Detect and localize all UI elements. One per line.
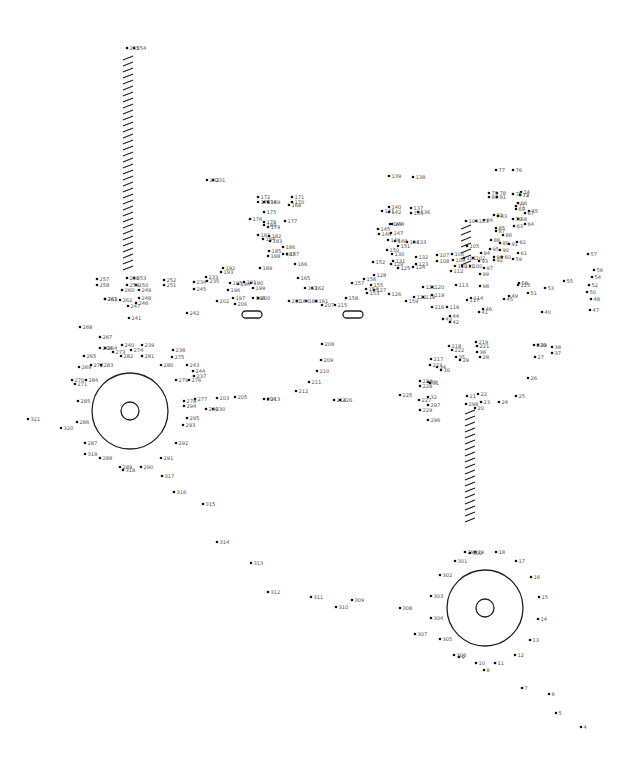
dot-number: 311 [314, 594, 324, 600]
dot-number: 316 [177, 489, 187, 495]
dot-marker [77, 400, 80, 403]
dot-marker [76, 421, 79, 424]
dot-number: 274 [134, 347, 145, 353]
dot-317: 317 [161, 473, 175, 479]
dot-marker [466, 245, 469, 248]
dot-marker [489, 248, 492, 251]
dot-number: 248 [142, 295, 152, 301]
dot-marker [418, 399, 421, 402]
dot-137: 137 [410, 205, 424, 211]
dot-marker [555, 712, 558, 715]
dot-121: 121 [422, 284, 436, 290]
dot-number: 223 [433, 362, 443, 368]
dot-marker [427, 404, 430, 407]
dot-marker [512, 258, 515, 261]
dot-number: 83 [501, 213, 508, 219]
dot-marker [563, 280, 566, 283]
dot-number: 163 [308, 285, 318, 291]
dot-marker [252, 287, 255, 290]
dot-number: 252 [167, 277, 177, 283]
dot-number: 209 [324, 357, 334, 363]
dot-marker [99, 457, 102, 460]
dot-number: 310 [339, 604, 349, 610]
dot-marker [60, 427, 63, 430]
dot-marker [206, 280, 209, 283]
dot-301: 301 [454, 558, 468, 564]
dot-marker [138, 289, 141, 292]
dot-290: 290 [140, 464, 154, 470]
dot-marker [126, 47, 129, 50]
dot-262: 262 [119, 297, 133, 303]
dot-149: 149 [387, 237, 401, 243]
dot-marker [495, 169, 498, 172]
dot-marker [397, 245, 400, 248]
dot-number: 51 [531, 290, 538, 296]
dot-marker [121, 289, 124, 292]
dot-number: 52 [592, 282, 599, 288]
dot-marker [483, 267, 486, 270]
dot-marker [104, 298, 107, 301]
dot-marker [140, 466, 143, 469]
dot-number: 175 [267, 209, 277, 215]
dot-marker [193, 288, 196, 291]
dot-number: 196 [231, 287, 241, 293]
dot-marker [294, 263, 297, 266]
dot-marker [183, 405, 186, 408]
dot-marker [455, 284, 458, 287]
dot-number: 171 [295, 194, 305, 200]
dot-marker [475, 662, 478, 665]
dot-marker [90, 364, 93, 367]
dot-marker [430, 617, 433, 620]
dot-number: 156 [367, 276, 377, 282]
dot-marker [351, 599, 354, 602]
dot-number: 108 [440, 258, 450, 264]
dot-marker [515, 560, 518, 563]
dot-number: 297 [431, 402, 441, 408]
dot-number: 200 [261, 295, 271, 301]
dot-marker [451, 349, 454, 352]
dot-number: 89 [503, 240, 510, 246]
dot-marker [455, 356, 458, 359]
dot-marker [267, 591, 270, 594]
dot-315: 315 [202, 501, 216, 507]
dot-21: 21 [466, 393, 476, 399]
dot-marker [173, 491, 176, 494]
dot-75: 75 [512, 191, 522, 197]
dot-marker [488, 192, 491, 195]
dot-27: 27 [534, 354, 544, 360]
dot-marker [84, 442, 87, 445]
dot-marker [100, 364, 103, 367]
dot-marker [397, 267, 400, 270]
dot-marker [530, 576, 533, 579]
dot-marker [503, 298, 506, 301]
dot-number: 216 [435, 304, 445, 310]
dot-marker [479, 356, 482, 359]
dot-marker [499, 242, 502, 245]
dot-number: 102 [476, 255, 486, 261]
dot-220: 220 [533, 342, 547, 348]
dot-marker [512, 193, 515, 196]
dot-marker [483, 669, 486, 672]
dot-number: 54 [595, 274, 602, 280]
dot-marker [479, 273, 482, 276]
dot-marker [515, 395, 518, 398]
dot-marker [351, 282, 354, 285]
dot-marker [388, 293, 391, 296]
dot-176: 176 [249, 216, 263, 222]
dot-156: 156 [363, 276, 377, 282]
dot-marker [419, 385, 422, 388]
dot-285: 285 [77, 398, 91, 404]
dot-marker [469, 552, 472, 555]
dot-number: 26 [531, 375, 538, 381]
dot-number: 25 [519, 393, 526, 399]
dot-marker [141, 344, 144, 347]
dot-marker [465, 403, 468, 406]
dot-55: 55 [563, 278, 573, 284]
dot-211: 211 [308, 379, 322, 385]
dot-marker [71, 379, 74, 382]
dot-number: 158 [349, 295, 359, 301]
dot-16: 16 [530, 574, 540, 580]
dot-number: 86 [506, 232, 513, 238]
dot-36: 36 [476, 349, 486, 355]
dot-marker [490, 239, 493, 242]
